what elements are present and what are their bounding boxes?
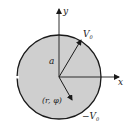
point-label: (r, φ): [42, 96, 62, 105]
radius-label: a: [49, 56, 54, 66]
velocity-top-label: V0: [83, 29, 94, 40]
x-axis-label: x: [118, 77, 123, 87]
y-axis-label: y: [62, 6, 69, 16]
left-gap-mark: [14, 76, 19, 79]
diagram-canvas: y x a V0 −V0 (r, φ): [0, 0, 133, 127]
velocity-bottom-label: −V0: [82, 111, 100, 122]
